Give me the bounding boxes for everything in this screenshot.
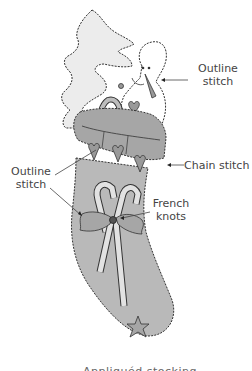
figure-caption: Appliquéd stocking with [70,362,210,371]
label-line: Outline [190,62,246,75]
label-outline-stitch-left: Outline stitch [6,165,56,191]
label-line: stitch [190,75,246,88]
french-knots [110,217,117,224]
label-french-knots: French knots [148,197,194,223]
label-line: stitch [6,178,56,191]
label-line: Outline [6,165,56,178]
stocking-body [72,158,174,336]
label-line: knots [148,210,194,223]
label-outline-stitch-top: Outline stitch [190,62,246,88]
heart-icon [89,143,100,160]
label-line: French [148,197,194,210]
label-chain-stitch: Chain stitch [184,159,252,172]
